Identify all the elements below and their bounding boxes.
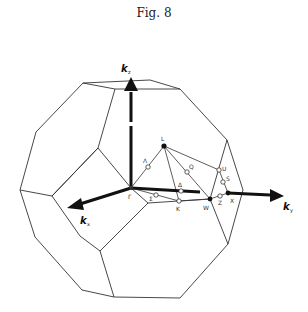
q-point bbox=[185, 170, 189, 174]
kz-arrowhead-icon bbox=[124, 77, 138, 91]
delta-label: Δ bbox=[178, 181, 183, 188]
l-point bbox=[161, 143, 166, 148]
high-symmetry-points bbox=[129, 143, 230, 203]
kx-subscript: x bbox=[87, 221, 90, 227]
u-label: U bbox=[222, 165, 226, 172]
sigma-label: Σ bbox=[149, 195, 153, 202]
kz-subscript: z bbox=[128, 69, 131, 75]
u-point bbox=[217, 168, 221, 172]
delta-point bbox=[179, 189, 183, 193]
lambda-point bbox=[146, 165, 150, 169]
brillouin-zone-diagram: Γ L K W X U S Z Q Λ Δ Σ k z k x k y bbox=[0, 0, 308, 312]
s-point bbox=[221, 180, 225, 184]
q-label: Q bbox=[189, 163, 194, 170]
s-label: S bbox=[226, 175, 230, 182]
kx-arrowhead-icon bbox=[67, 198, 84, 210]
k-label: K bbox=[176, 205, 181, 212]
z-label: Z bbox=[218, 199, 222, 206]
w-point bbox=[208, 197, 213, 202]
gamma-point bbox=[129, 186, 133, 190]
ky-arrowhead-icon bbox=[270, 189, 284, 202]
lambda-label: Λ bbox=[143, 157, 148, 164]
k-point bbox=[177, 199, 181, 203]
axis-labels: k z k x k y bbox=[80, 63, 293, 227]
ky-subscript: y bbox=[290, 207, 293, 214]
gamma-label: Γ bbox=[128, 193, 132, 200]
l-label: L bbox=[161, 135, 165, 142]
z-point bbox=[218, 194, 222, 198]
x-point bbox=[226, 191, 231, 196]
x-label: X bbox=[230, 197, 234, 204]
sigma-point bbox=[154, 193, 158, 197]
w-label: W bbox=[203, 204, 209, 211]
